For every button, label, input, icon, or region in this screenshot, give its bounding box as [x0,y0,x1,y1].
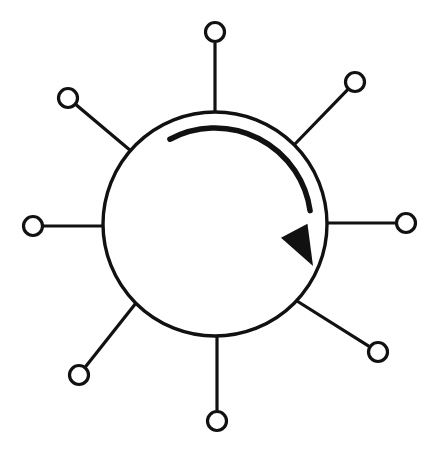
spoke-node-upper-right [346,73,365,92]
spoke-node-top [206,23,225,42]
spoke-node-bottom [208,412,227,431]
spoke-node-right [397,214,416,233]
spoke-node-upper-left [59,89,78,108]
spoke-node-lower-right [369,343,388,362]
spoke-node-left [24,217,43,236]
spoke-node-lower-left [70,366,89,385]
rotating-wheel-diagram [0,0,437,461]
figure-root [0,0,437,461]
